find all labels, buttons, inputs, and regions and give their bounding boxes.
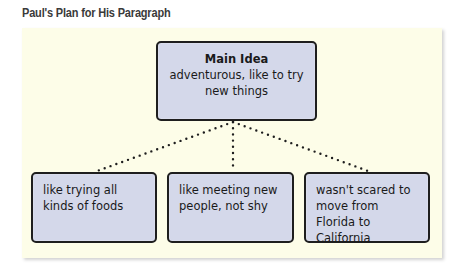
main-idea-text: adventurous, like to try new things — [158, 67, 315, 99]
detail-box-1: like trying all kinds of foods — [31, 172, 157, 243]
diagram-title: Paul's Plan for His Paragraph — [22, 6, 171, 20]
detail-box-2: like meeting new people, not shy — [167, 172, 294, 243]
detail-text-3: wasn't scared to move from Florida to Ca… — [316, 183, 410, 245]
detail-box-3: wasn't scared to move from Florida to Ca… — [304, 172, 430, 243]
detail-text-1: like trying all kinds of foods — [43, 183, 123, 213]
main-idea-heading: Main Idea — [158, 51, 315, 67]
detail-text-2: like meeting new people, not shy — [179, 183, 277, 213]
main-idea-box: Main Idea adventurous, like to try new t… — [156, 41, 317, 121]
